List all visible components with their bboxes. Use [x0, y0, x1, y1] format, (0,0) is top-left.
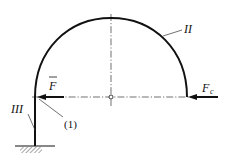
diagram-canvas: II III (1) F F c — [0, 0, 226, 168]
fixed-support — [15, 146, 55, 153]
label-arch: II — [183, 22, 193, 36]
label-point-1: (1) — [64, 118, 77, 131]
label-force-fc: F c — [201, 81, 214, 96]
label-force-f: F — [48, 77, 57, 93]
leader-line-post — [28, 114, 35, 130]
svg-text:F: F — [201, 81, 210, 95]
svg-text:c: c — [210, 87, 214, 96]
force-arrow-f — [37, 94, 64, 100]
label-post: III — [10, 102, 24, 116]
center-point — [109, 95, 113, 99]
leader-line-arch — [163, 30, 182, 36]
leader-line-joint — [39, 99, 63, 117]
svg-text:F: F — [48, 79, 57, 93]
